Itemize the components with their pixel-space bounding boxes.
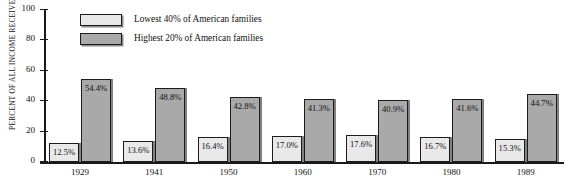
bar-group: 16.7%41.6%: [420, 10, 482, 162]
y-axis-tick: 0: [40, 161, 48, 162]
legend-label: Lowest 40% of American families: [134, 14, 262, 25]
x-axis-tick-label: 1929: [50, 167, 110, 178]
bar: 44.7%: [527, 94, 557, 162]
y-axis-tick-label: 20: [26, 125, 35, 136]
y-axis-tick: 100: [40, 9, 48, 10]
bar-value-label: 48.8%: [156, 92, 184, 102]
bar-value-label: 42.8%: [231, 101, 259, 111]
y-axis-tick-label: 0: [31, 155, 36, 166]
x-axis-tick-label: 1941: [124, 167, 184, 178]
bar: 12.5%: [49, 143, 79, 162]
bar: 16.4%: [198, 137, 228, 162]
bar-value-label: 16.7%: [421, 141, 449, 151]
x-axis-tick-label: 1950: [199, 167, 259, 178]
bar: 13.6%: [123, 141, 153, 162]
bar: 15.3%: [495, 139, 525, 162]
legend-item: Highest 20% of American families: [80, 31, 263, 46]
bar: 40.9%: [378, 100, 408, 162]
bar: 42.8%: [230, 97, 260, 162]
bar: 17.6%: [346, 135, 376, 162]
y-axis-tick: 40: [40, 100, 48, 101]
bar-value-label: 41.3%: [305, 103, 333, 113]
y-axis-tick-label: 40: [26, 94, 35, 105]
bar-value-label: 17.0%: [273, 140, 301, 150]
legend-swatch: [80, 14, 122, 26]
bar: 48.8%: [155, 88, 185, 162]
y-axis-tick: 80: [40, 39, 48, 40]
bar-group: 17.0%41.3%: [272, 10, 334, 162]
bar-value-label: 40.9%: [379, 104, 407, 114]
y-axis-tick: 20: [40, 131, 48, 132]
x-axis-tick-label: 1989: [496, 167, 556, 178]
bar-value-label: 41.6%: [453, 103, 481, 113]
bar-value-label: 16.4%: [199, 141, 227, 151]
y-axis-title: PERCENT OF ALL INCOME RECEIVED: [9, 0, 17, 137]
bar-value-label: 15.3%: [496, 143, 524, 153]
bar-value-label: 44.7%: [528, 98, 556, 108]
legend-swatch: [80, 33, 122, 45]
bar-value-label: 17.6%: [347, 139, 375, 149]
bar-group: 15.3%44.7%: [495, 10, 557, 162]
bar-group: 17.6%40.9%: [346, 10, 408, 162]
legend-label: Highest 20% of American families: [134, 33, 263, 44]
bar-value-label: 54.4%: [82, 83, 110, 93]
bar-value-label: 12.5%: [50, 147, 78, 157]
bar: 54.4%: [81, 79, 111, 162]
bar: 41.6%: [452, 99, 482, 162]
y-axis-tick: 60: [40, 70, 48, 71]
bar-value-label: 13.6%: [124, 145, 152, 155]
x-axis-line: [40, 162, 564, 164]
x-axis-tick-label: 1980: [421, 167, 481, 178]
chart-legend: Lowest 40% of American familiesHighest 2…: [80, 12, 263, 50]
y-axis-tick-label: 100: [22, 3, 36, 14]
bar: 17.0%: [272, 136, 302, 162]
y-axis-tick-label: 60: [26, 64, 35, 75]
x-axis-tick-label: 1960: [273, 167, 333, 178]
y-axis-line: [44, 10, 46, 163]
bar: 41.3%: [304, 99, 334, 162]
income-distribution-bar-chart: PERCENT OF ALL INCOME RECEIVED 020406080…: [0, 0, 570, 187]
y-axis-tick-label: 80: [26, 33, 35, 44]
x-axis-tick-label: 1970: [347, 167, 407, 178]
bar: 16.7%: [420, 137, 450, 162]
legend-item: Lowest 40% of American families: [80, 12, 263, 27]
